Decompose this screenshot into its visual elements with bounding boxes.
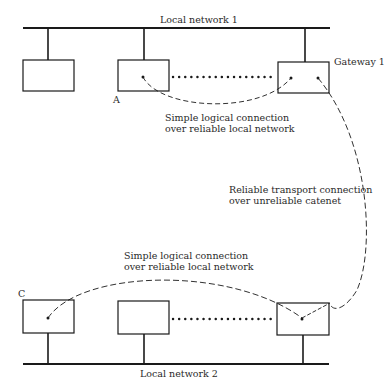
gateway-1-label: Gateway 1 [334,56,385,67]
network-1-label: Local network 1 [160,14,238,25]
local-network-2: Local network 2 [23,333,329,379]
endpoint-dot-c [47,317,50,320]
endpoint-dot-gw2 [301,318,304,321]
transport-connection-line2: over unreliable catenet [229,195,341,206]
top-connection-line2: over reliable local network [165,123,295,134]
network-diagram: Local network 1 A Gateway 1 Simple logic… [0,0,391,389]
host-box-4 [118,301,169,334]
top-connection-line1: Simple logical connection [165,112,289,123]
network-2-label: Local network 2 [140,368,218,379]
host-box-1 [23,60,74,91]
host-a-label: A [112,94,120,105]
local-network-1: Local network 1 [23,14,330,62]
host-box-a [118,60,169,91]
transport-tail [302,303,330,318]
host-c-label: C [18,288,25,299]
bottom-connection-line1: Simple logical connection [124,250,248,261]
bottom-connection-line2: over reliable local network [124,261,254,272]
logical-connection-top [143,77,291,104]
gateway-1-box-top [278,62,329,93]
logical-connection-bottom [48,280,302,318]
transport-connection-line1: Reliable transport connection [229,184,372,195]
